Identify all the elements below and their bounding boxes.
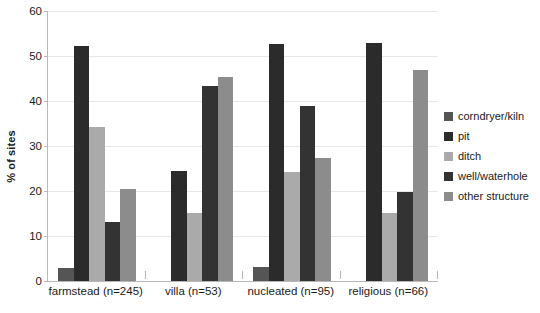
y-axis-tick-label: 0 [16,275,42,287]
legend-swatch-icon [444,172,453,181]
legend: corndryer/kilnpitditchwell/waterholeothe… [444,106,540,206]
x-axis-separator [437,271,438,279]
legend-item[interactable]: pit [444,126,540,146]
legend-item[interactable]: well/waterhole [444,166,540,186]
legend-item[interactable]: ditch [444,146,540,166]
legend-item-label: corndryer/kiln [458,110,524,122]
legend-item[interactable]: corndryer/kiln [444,106,540,126]
y-axis-tick-label: 30 [16,140,42,152]
y-axis-tick-label: 50 [16,50,42,62]
x-axis-category-labels: farmstead (n=245)villa (n=53)nucleated (… [47,0,437,313]
legend-swatch-icon [444,132,453,141]
x-axis-category-label: farmstead (n=245) [49,285,143,297]
x-axis-category-label: villa (n=53) [165,285,222,297]
legend-item-label: pit [458,130,470,142]
legend-item[interactable]: other structure [444,186,540,206]
y-axis-tick-label: 10 [16,230,42,242]
legend-swatch-icon [444,192,453,201]
x-axis-category-label: religious (n=66) [348,285,428,297]
x-axis-separator [47,271,48,279]
legend-swatch-icon [444,112,453,121]
legend-item-label: well/waterhole [458,170,528,182]
x-axis-separator [242,271,243,279]
x-axis-category-label: nucleated (n=95) [247,285,334,297]
y-axis-tick-label: 40 [16,95,42,107]
y-axis-tick-labels: 0102030405060 [14,0,42,313]
x-axis-separator [145,271,146,279]
y-axis-tick-label: 20 [16,185,42,197]
legend-item-label: ditch [458,150,481,162]
legend-item-label: other structure [458,190,529,202]
legend-swatch-icon [444,152,453,161]
bar-chart: % of sites 0102030405060 farmstead (n=24… [0,0,540,313]
x-axis-separator [340,271,341,279]
y-axis-tick-label: 60 [16,5,42,17]
